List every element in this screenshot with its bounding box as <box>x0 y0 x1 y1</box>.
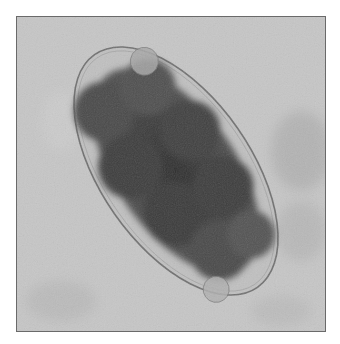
micrograph-frame <box>16 16 326 332</box>
micrograph-image <box>17 17 326 332</box>
